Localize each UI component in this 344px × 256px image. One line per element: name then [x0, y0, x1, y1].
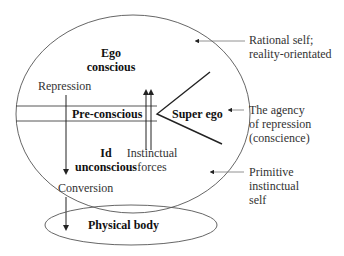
id-subtitle: unconscious [70, 160, 142, 174]
conversion-label: Conversion [58, 181, 113, 195]
rational-self-line1: Rational self; [249, 33, 332, 47]
agency-line3: (conscience) [249, 131, 311, 145]
ego-title: Ego [78, 46, 144, 60]
primitive-self-annotation: Primitive instinctual self [249, 165, 299, 207]
primitive-line2: instinctual [249, 179, 299, 193]
primitive-line3: self [249, 193, 299, 207]
ego-label: Ego conscious [78, 46, 144, 74]
id-label: Id unconscious [70, 146, 142, 174]
rational-self-annotation: Rational self; reality-orientated [249, 33, 332, 61]
primitive-line1: Primitive [249, 165, 299, 179]
agency-annotation: The agency of repression (conscience) [249, 103, 311, 145]
preconscious-label: Pre-conscious [72, 107, 142, 121]
id-title: Id [70, 146, 142, 160]
agency-line2: of repression [249, 117, 311, 131]
physical-body-label: Physical body [88, 218, 159, 232]
superego-label: Super ego [172, 107, 223, 121]
repression-label: Repression [38, 79, 91, 93]
ego-subtitle: conscious [78, 60, 144, 74]
agency-line1: The agency [249, 103, 311, 117]
rational-self-line2: reality-orientated [249, 47, 332, 61]
